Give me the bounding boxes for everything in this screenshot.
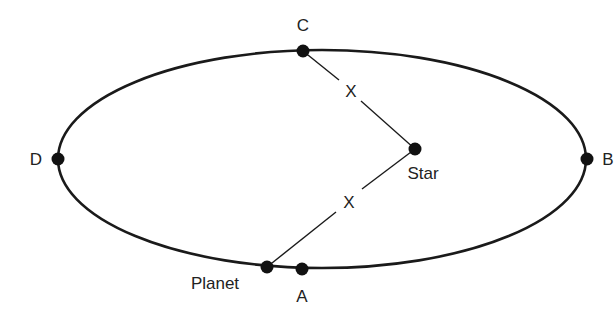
point-c (297, 45, 310, 58)
point-b (581, 153, 594, 166)
orbit-diagram: X X C D B A Planet Star (0, 0, 614, 320)
distance-line-c-star (303, 51, 415, 149)
point-a (296, 263, 309, 276)
star-dot (409, 143, 422, 156)
planet-dot (261, 261, 274, 274)
distance-line-star-planet (267, 149, 415, 267)
label-c: C (297, 16, 309, 35)
label-a: A (296, 287, 308, 306)
distance-label-lower: X (343, 193, 354, 212)
orbit-ellipse (58, 50, 586, 268)
label-planet: Planet (191, 274, 239, 293)
distance-label-upper: X (345, 82, 356, 101)
label-star: Star (407, 164, 439, 183)
label-b: B (602, 150, 613, 169)
label-d: D (30, 150, 42, 169)
point-d (52, 153, 65, 166)
